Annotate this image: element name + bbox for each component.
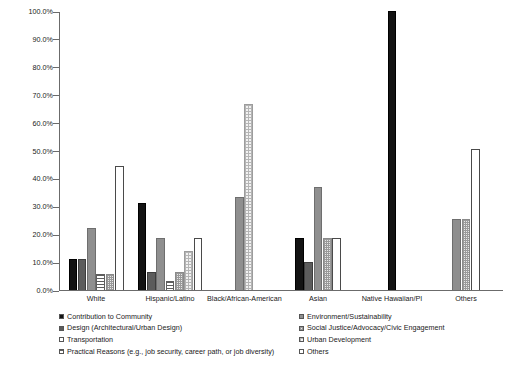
x-axis-category-label: Native Hawaiian/PI [355,295,429,302]
bar [235,197,244,290]
bar [69,259,78,290]
legend-swatch-icon [299,314,304,319]
y-axis-tick-label: 60.0% [7,120,53,127]
legend-item[interactable]: Social Justice/Advocacy/Civic Engagement [299,323,509,334]
bar [295,238,304,290]
bar [156,238,165,290]
legend-column-left: Contribution to CommunityDesign (Archite… [59,311,309,357]
legend-item-label: Social Justice/Advocacy/Civic Engagement [307,324,444,331]
y-axis-tick [53,207,59,208]
plot-area: 0.0%10.0%20.0%30.0%40.0%50.0%60.0%70.0%8… [59,12,503,291]
legend-item-label: Urban Development [307,336,371,343]
legend-item-label: Practical Reasons (e.g., job security, c… [67,348,274,355]
y-axis-tick [53,151,59,152]
x-axis-line [59,290,503,291]
bar [184,251,193,290]
bar [452,219,461,290]
bar-chart: 0.0%10.0%20.0%30.0%40.0%50.0%60.0%70.0%8… [0,0,510,365]
legend-item[interactable]: Environment/Sustainability [299,311,509,322]
x-axis-category-label: White [59,295,133,302]
legend-item[interactable]: Transportation [59,334,309,345]
bar [323,238,332,290]
y-axis-tick-label: 70.0% [7,92,53,99]
bar [138,203,147,290]
bar [106,274,115,290]
bar [147,272,156,290]
legend-swatch-icon [59,314,64,319]
x-axis-category-label: Asian [281,295,355,302]
legend-item[interactable]: Practical Reasons (e.g., job security, c… [59,346,309,357]
bar [244,104,253,290]
bar [115,166,124,290]
legend-item-label: Environment/Sustainability [307,313,392,320]
bar [78,259,87,290]
chart-legend: Contribution to CommunityDesign (Archite… [59,311,505,359]
y-axis-tick [53,67,59,68]
y-axis-tick-label: 10.0% [7,259,53,266]
legend-swatch-icon [299,349,304,354]
y-axis-tick-label: 20.0% [7,231,53,238]
y-axis-tick-label: 30.0% [7,203,53,210]
y-axis-tick-label: 50.0% [7,148,53,155]
legend-swatch-icon [59,349,64,354]
x-axis-category-label: Others [429,295,503,302]
y-axis-tick-label: 100.0% [7,8,53,15]
x-axis-category-label: Black/African-American [207,295,281,302]
legend-item[interactable]: Urban Development [299,334,509,345]
y-axis-tick [53,235,59,236]
legend-item[interactable]: Others [299,346,509,357]
y-axis-tick [53,263,59,264]
y-axis-tick-label: 90.0% [7,36,53,43]
y-axis-tick [53,95,59,96]
bar [314,187,323,290]
legend-swatch-icon [299,337,304,342]
legend-item[interactable]: Contribution to Community [59,311,309,322]
legend-column-right: Environment/SustainabilitySocial Justice… [299,311,509,357]
bar [332,238,341,290]
y-axis-tick-label: 80.0% [7,64,53,71]
bar [388,11,397,290]
y-axis-tick [53,12,59,13]
bar [304,262,313,290]
x-axis-category-label: Hispanic/Latino [133,295,207,302]
bar [87,228,96,290]
legend-item[interactable]: Design (Architectural/Urban Design) [59,323,309,334]
legend-item-label: Others [307,348,329,355]
bar [96,274,105,290]
bar [471,149,480,290]
legend-swatch-icon [299,326,304,331]
y-axis-tick [53,39,59,40]
legend-item-label: Design (Architectural/Urban Design) [67,324,182,331]
bar [194,238,203,290]
legend-swatch-icon [59,326,64,331]
legend-item-label: Transportation [67,336,113,343]
legend-item-label: Contribution to Community [67,313,152,320]
legend-swatch-icon [59,337,64,342]
y-axis-tick [53,179,59,180]
y-axis-tick [53,291,59,292]
y-axis-tick-label: 40.0% [7,175,53,182]
bar [175,272,184,290]
y-axis-line [59,12,60,291]
bar [462,219,471,290]
bar [166,281,175,290]
y-axis-tick-label: 0.0% [7,287,53,294]
y-axis-tick [53,123,59,124]
